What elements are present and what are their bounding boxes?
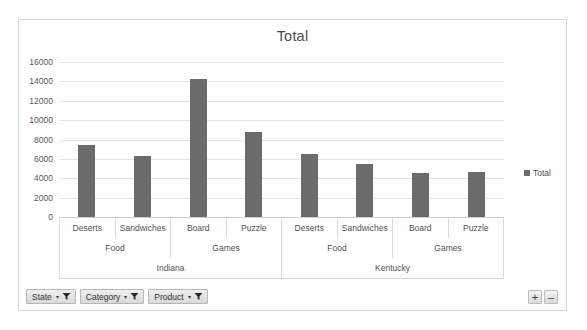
chevron-down-icon[interactable]: ▾ bbox=[124, 294, 127, 300]
category-axis: DesertsSandwichesBoardPuzzleDesertsSandw… bbox=[59, 217, 504, 279]
pivot-chart-frame[interactable]: Total 0200040006000800010000120001400016… bbox=[18, 19, 567, 311]
bar[interactable] bbox=[468, 172, 485, 217]
funnel-icon[interactable] bbox=[130, 292, 139, 301]
field-button-label: State bbox=[32, 292, 52, 302]
category-label-product: Deserts bbox=[60, 217, 116, 238]
bar[interactable] bbox=[412, 173, 429, 217]
bar[interactable] bbox=[301, 154, 318, 217]
y-axis-tick-label: 12000 bbox=[29, 96, 53, 106]
legend-label-total: Total bbox=[533, 168, 551, 178]
plot-area bbox=[59, 62, 504, 217]
field-button-label: Category bbox=[86, 292, 121, 302]
category-label-category: Games bbox=[393, 238, 503, 258]
bar-series-total[interactable] bbox=[59, 62, 504, 217]
chevron-down-icon[interactable]: ▾ bbox=[56, 294, 59, 300]
category-label-product: Board bbox=[171, 217, 227, 238]
expand-field-button[interactable]: + bbox=[528, 290, 542, 304]
field-button-state[interactable]: State▾ bbox=[26, 289, 76, 304]
collapse-field-button[interactable]: – bbox=[544, 290, 558, 304]
y-axis-tick-label: 8000 bbox=[34, 135, 53, 145]
y-axis-tick-labels: 0200040006000800010000120001400016000 bbox=[19, 62, 57, 217]
chart-title: Total bbox=[19, 28, 566, 44]
bar[interactable] bbox=[356, 164, 373, 217]
chevron-down-icon[interactable]: ▾ bbox=[188, 294, 191, 300]
field-button-product[interactable]: Product▾ bbox=[148, 289, 207, 304]
funnel-icon[interactable] bbox=[62, 292, 71, 301]
category-axis-level-product: DesertsSandwichesBoardPuzzleDesertsSandw… bbox=[60, 217, 503, 238]
category-axis-level-state: IndianaKentucky bbox=[60, 258, 503, 278]
bar[interactable] bbox=[134, 156, 151, 217]
y-axis-tick-label: 10000 bbox=[29, 115, 53, 125]
y-axis-tick-label: 4000 bbox=[34, 173, 53, 183]
category-label-category: Games bbox=[171, 238, 282, 258]
category-label-product: Puzzle bbox=[227, 217, 283, 238]
category-axis-level-category: FoodGamesFoodGames bbox=[60, 238, 503, 258]
category-label-product: Sandwiches bbox=[338, 217, 394, 238]
legend-swatch-total bbox=[524, 170, 530, 176]
y-axis-tick-label: 2000 bbox=[34, 193, 53, 203]
category-label-state: Indiana bbox=[60, 258, 282, 278]
field-button-category[interactable]: Category▾ bbox=[80, 289, 145, 304]
category-label-product: Puzzle bbox=[449, 217, 504, 238]
category-label-category: Food bbox=[60, 238, 171, 258]
category-label-state: Kentucky bbox=[282, 258, 503, 278]
funnel-icon[interactable] bbox=[194, 292, 203, 301]
bar[interactable] bbox=[78, 145, 95, 217]
y-axis-tick-label: 6000 bbox=[34, 154, 53, 164]
y-axis-tick-label: 14000 bbox=[29, 76, 53, 86]
y-axis-tick-label: 16000 bbox=[29, 57, 53, 67]
chart-legend[interactable]: Total bbox=[524, 168, 551, 178]
field-button-label: Product bbox=[154, 292, 183, 302]
category-label-product: Sandwiches bbox=[116, 217, 172, 238]
pivot-field-buttons: State▾Category▾Product▾ bbox=[26, 289, 208, 304]
category-label-product: Board bbox=[393, 217, 449, 238]
y-axis-tick-label: 0 bbox=[48, 212, 53, 222]
bar[interactable] bbox=[245, 132, 262, 217]
category-label-product: Deserts bbox=[282, 217, 338, 238]
bar[interactable] bbox=[190, 79, 207, 217]
field-level-buttons: +– bbox=[528, 290, 558, 304]
category-label-category: Food bbox=[282, 238, 393, 258]
